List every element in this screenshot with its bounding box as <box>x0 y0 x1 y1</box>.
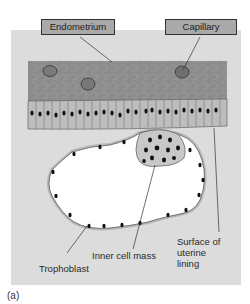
endometrium-tissue <box>28 61 227 101</box>
inner-cell-mass <box>136 130 185 167</box>
label-surface-line3: lining <box>177 258 199 269</box>
blastocyst <box>49 130 205 229</box>
figure-caption: (a) <box>7 290 19 301</box>
uterine-epithelium <box>28 99 227 129</box>
label-inner-cell-mass: Inner cell mass <box>92 250 156 261</box>
label-surface-line2: uterine <box>177 247 206 258</box>
label-trophoblast: Trophoblast <box>39 263 89 274</box>
label-endometrium: Endometrium <box>41 19 115 35</box>
label-capillary: Capillary <box>165 19 237 35</box>
label-surface-line1: Surface of <box>177 236 220 247</box>
